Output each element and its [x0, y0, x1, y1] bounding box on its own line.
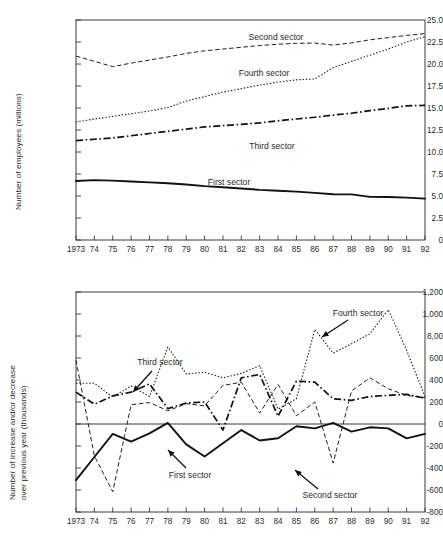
figure-employment-by-sector: Number of employees (millions) 02.55.07.… [0, 0, 443, 557]
plot-area-top [0, 0, 443, 278]
series-line-first-sector [76, 180, 425, 198]
series-line-fourth-sector [76, 37, 425, 122]
annotation-arrow-icon [168, 450, 186, 468]
chart-employees: Number of employees (millions) 02.55.07.… [0, 0, 443, 278]
series-line-third-sector [76, 375, 425, 431]
series-line-second-sector [76, 34, 425, 67]
series-line-third-sector [76, 105, 425, 140]
series-line-fourth-sector [76, 310, 425, 410]
series-line-first-sector [76, 423, 425, 480]
chart-change: Number of increase and/or decreaseover p… [0, 278, 443, 557]
plot-area-bottom [0, 278, 443, 557]
series-line-second-sector [76, 360, 425, 491]
annotation-arrow-icon [295, 470, 318, 489]
annotation-arrow-icon [322, 320, 348, 337]
annotation-arrow-icon [133, 371, 152, 392]
